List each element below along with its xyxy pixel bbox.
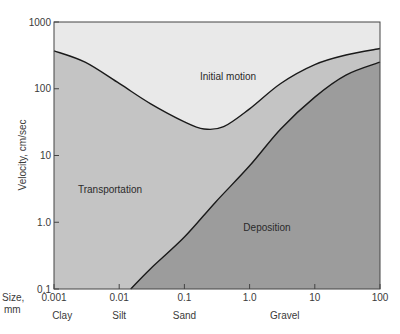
size-class-sand: Sand: [173, 310, 196, 321]
x-tick-label: 0.1: [177, 292, 191, 303]
y-axis-label: Velocity, cm/sec: [17, 120, 28, 191]
region-label-initial-motion: Initial motion: [200, 71, 256, 82]
y-tick-label: 100: [34, 83, 51, 94]
size-class-gravel: Gravel: [270, 310, 299, 321]
y-tick-label: 1000: [29, 17, 52, 28]
x-tick-label: 0.01: [109, 292, 129, 303]
x-tick-label: 100: [372, 292, 389, 303]
y-tick-label: 1.0: [37, 217, 51, 228]
region-label-deposition: Deposition: [243, 222, 290, 233]
size-class-clay: Clay: [52, 310, 72, 321]
x-axis-label: Size,: [2, 292, 24, 303]
y-tick-label: 10: [40, 150, 52, 161]
erosion-deposition-chart: 0.0010.010.11.0101000.11.0101001000Veloc…: [0, 0, 400, 334]
x-axis-unit: mm: [4, 304, 21, 315]
region-label-transportation: Transportation: [78, 184, 142, 195]
x-tick-label: 10: [309, 292, 321, 303]
x-tick-label: 1.0: [243, 292, 257, 303]
size-class-silt: Silt: [112, 310, 126, 321]
y-tick-label: 0.1: [37, 284, 51, 295]
